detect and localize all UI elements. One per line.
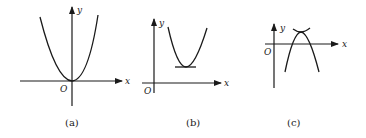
x-axis-label: x [342, 39, 347, 49]
origin-label: O [264, 47, 272, 57]
x-axis-label: x [125, 76, 130, 86]
panel-c: x y O (c) [264, 23, 347, 128]
panel-a: x y O (a) [20, 5, 130, 128]
y-axis-label: y [158, 18, 165, 28]
origin-label: O [60, 84, 68, 94]
parabola-figure: x y O (a) x y O (b) x y O (c) [0, 0, 366, 138]
vertex-tangent-marks [293, 28, 310, 32]
parabola-curve [40, 15, 98, 81]
parabola-curve [285, 32, 319, 72]
panel-b: x y O (b) [142, 18, 229, 128]
y-axis-label: y [279, 23, 286, 33]
caption-b: (b) [186, 117, 200, 128]
caption-c: (c) [287, 117, 301, 128]
origin-label: O [144, 86, 152, 96]
x-axis-label: x [224, 78, 229, 88]
caption-a: (a) [65, 117, 79, 128]
parabola-curve [168, 27, 207, 67]
y-axis-label: y [76, 5, 83, 15]
